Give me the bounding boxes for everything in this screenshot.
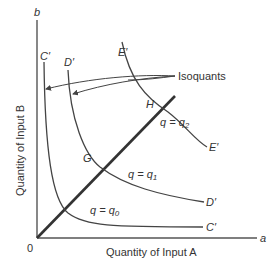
isoquant-e-top-label: E′ [118, 46, 128, 58]
isoquant-c-end-label: C′ [206, 221, 217, 233]
y-axis-title: Quantity of Input B [14, 105, 26, 196]
isoquant-d-end-label: D′ [206, 196, 217, 208]
isoquant-c-top-label: C′ [40, 50, 51, 62]
x-axis-title: Quantity of Input A [106, 246, 197, 258]
isoquant-diagram: b a 0 Quantity of Input A Quantity of In… [0, 0, 280, 279]
point-g-label: G [83, 152, 92, 164]
origin-label: 0 [27, 242, 33, 254]
isoquant-e-curve [122, 42, 207, 147]
isoquant-e-end-label: E′ [209, 141, 219, 153]
x-axis-end-label: a [260, 232, 266, 244]
diagram-svg: b a 0 Quantity of Input A Quantity of In… [0, 0, 280, 279]
isoquants-annotation: Isoquants [178, 70, 226, 82]
isoquant-c-curve [44, 62, 203, 227]
isoquant-c-equation: q = q0 [90, 204, 120, 218]
expansion-ray [37, 96, 175, 238]
isoquant-d-equation: q = q1 [128, 168, 157, 182]
isoquant-e-equation: q = q2 [160, 116, 190, 130]
point-h-label: H [146, 98, 154, 110]
isoquant-d-top-label: D′ [64, 56, 75, 68]
isoquants-arrow-d [73, 76, 175, 94]
y-axis-end-label: b [34, 6, 40, 18]
